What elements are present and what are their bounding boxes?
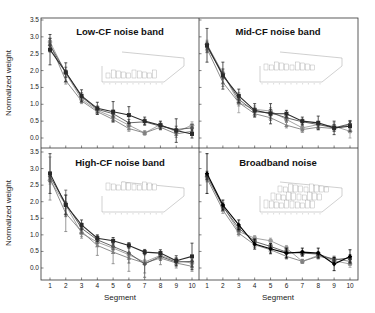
panel-title-mid-cf: Mid-CF noise band: [236, 26, 321, 37]
inset-bar: [300, 63, 304, 70]
series-path: [50, 44, 192, 134]
panel-title-high-cf: High-CF noise band: [75, 157, 165, 168]
inset-bar: [288, 184, 292, 192]
data-point: [158, 123, 162, 127]
data-point: [269, 112, 273, 116]
inset-bar: [278, 186, 282, 192]
y-axis-top-left: 0.00.51.01.52.02.53.03.5: [30, 16, 44, 141]
inset-bar: [274, 202, 278, 208]
inset-bar: [281, 195, 285, 200]
inset-bar: [311, 65, 315, 70]
inset-axis: [102, 188, 184, 212]
inset-3d-bar-plot: [102, 52, 184, 85]
data-point: [127, 113, 131, 117]
inset-bar: [153, 70, 157, 78]
panel-title-low-cf: Low-CF noise band: [76, 26, 164, 37]
series-line: [205, 45, 352, 133]
inset-bar: [292, 193, 296, 200]
inset-bar: [320, 186, 324, 192]
data-point: [127, 243, 131, 247]
data-point: [48, 48, 52, 52]
inset-bar: [137, 185, 141, 190]
inset-bar: [106, 73, 110, 78]
x-tick-label: 1: [205, 282, 209, 289]
y-tick-label: 3.5: [30, 148, 39, 155]
inset-bar: [280, 63, 284, 70]
data-point: [95, 106, 99, 110]
data-point: [253, 108, 257, 112]
x-tick-label: 10: [346, 282, 354, 289]
inset-bar: [306, 200, 310, 208]
series-line: [48, 34, 194, 142]
inset-bar: [274, 62, 278, 70]
plot-frame: [41, 18, 358, 280]
inset-bar: [325, 187, 329, 192]
inset-axis: [280, 52, 342, 58]
y-axis-title-top: Normalized weight: [4, 49, 13, 116]
data-point: [158, 251, 162, 255]
y-tick-label: 0.0: [30, 134, 39, 141]
series-line: [48, 176, 195, 266]
x-axis-bottom-left: 12345678910: [48, 282, 196, 289]
inset-bar: [294, 185, 298, 192]
inset-bar: [290, 201, 294, 208]
inset-bar: [306, 64, 310, 70]
data-point: [143, 250, 147, 254]
x-tick-label: 7: [143, 282, 147, 289]
inset-bar: [307, 192, 311, 200]
panel-top-left: [48, 34, 195, 142]
x-tick-label: 6: [127, 282, 131, 289]
series-line: [48, 39, 194, 138]
inset-bar: [290, 65, 294, 70]
inset-bar: [287, 192, 291, 200]
x-tick-label: 6: [285, 282, 289, 289]
y-tick-label: 1.0: [30, 100, 39, 107]
inset-bar: [283, 187, 287, 192]
inset-bar: [311, 201, 315, 208]
y-tick-label: 2.5: [30, 181, 39, 188]
data-point: [190, 132, 194, 136]
inset-bar: [297, 194, 301, 200]
x-tick-label: 7: [301, 282, 305, 289]
x-axis-bottom-right: 12345678910: [205, 282, 354, 289]
inset-axis: [122, 52, 184, 58]
inset-bar: [116, 185, 120, 190]
inset-3d-bar-plot: [260, 52, 342, 85]
inset-bar: [295, 62, 299, 70]
inset-bar: [276, 194, 280, 200]
series-path: [50, 179, 192, 267]
y-axis-bottom-left: 0.00.51.01.52.02.53.03.5: [30, 148, 44, 271]
panel-top-right: [205, 28, 353, 138]
data-point: [80, 223, 84, 227]
y-tick-label: 1.0: [30, 231, 39, 238]
inset-3d-bar-plot: [260, 182, 342, 215]
inset-bar: [137, 71, 141, 78]
inset-3d-bar-plot: [102, 182, 184, 215]
series-line: [205, 28, 352, 134]
inset-bar: [309, 184, 313, 192]
inset-bar: [271, 193, 275, 200]
inset-bar: [280, 203, 284, 208]
inset-bar: [299, 186, 303, 192]
inset-bar: [269, 65, 273, 70]
inset-bar: [285, 64, 289, 70]
inset-bar: [116, 71, 120, 78]
data-point: [190, 254, 194, 258]
y-tick-label: 2.0: [30, 198, 39, 205]
data-point: [300, 119, 304, 123]
data-point: [174, 259, 178, 263]
x-tick-label: 10: [188, 282, 196, 289]
inset-bar: [111, 184, 115, 190]
data-point: [221, 74, 225, 78]
data-point: [111, 239, 115, 243]
data-point: [64, 203, 68, 207]
inset-bar: [153, 184, 157, 190]
y-tick-label: 2.0: [30, 67, 39, 74]
inset-bar: [122, 182, 126, 190]
data-point: [237, 94, 241, 98]
series-line: [205, 42, 352, 131]
y-tick-label: 1.5: [30, 83, 39, 90]
inset-bar: [148, 73, 152, 78]
inset-bar: [304, 187, 308, 192]
series-line: [48, 38, 195, 135]
